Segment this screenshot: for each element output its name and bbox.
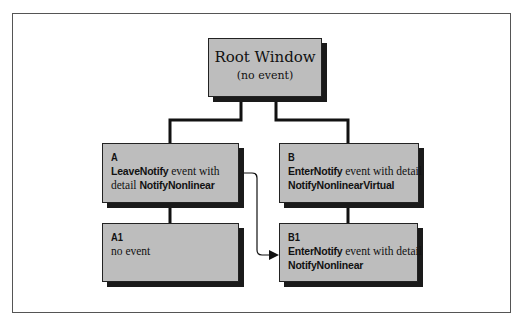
root-title: Root Window	[209, 48, 321, 66]
edge-root-b	[276, 97, 348, 143]
node-a1-text: no event	[111, 245, 150, 257]
node-root-window: Root Window (no event)	[208, 38, 322, 97]
node-b-label: B	[288, 150, 395, 164]
node-a-label: A	[111, 150, 216, 164]
node-b1: B1 EnterNotify event with detail NotifyN…	[279, 223, 418, 282]
arrowhead-icon	[269, 250, 279, 260]
node-a: A LeaveNotify event with detail NotifyNo…	[102, 143, 239, 203]
node-a1-label: A1	[111, 230, 216, 244]
node-a-event: LeaveNotify	[111, 165, 168, 177]
arrow-a-to-b1	[238, 173, 272, 255]
edge-root-a	[170, 97, 241, 143]
node-b1-label: B1	[288, 230, 394, 244]
node-b1-event: EnterNotify	[288, 245, 342, 257]
node-a-detail: NotifyNonlinear	[139, 179, 214, 191]
node-a1: A1 no event	[102, 223, 239, 282]
node-b1-detail: NotifyNonlinear	[288, 259, 363, 271]
node-b-detail: NotifyNonlinearVirtual	[288, 179, 394, 191]
root-subtitle: (no event)	[209, 69, 321, 82]
node-b: B EnterNotify event with detail NotifyNo…	[279, 143, 419, 203]
node-b-event: EnterNotify	[288, 165, 342, 177]
